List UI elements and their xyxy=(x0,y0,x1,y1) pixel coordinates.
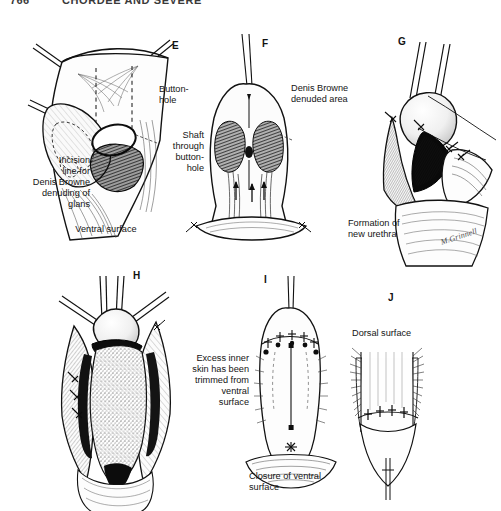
panel-g-artwork xyxy=(383,42,496,266)
figure-artwork xyxy=(0,0,501,511)
surgical-figure: E F G H I J Button- hole Incision line f… xyxy=(0,0,501,511)
panel-f-artwork xyxy=(186,34,311,240)
panel-j-artwork xyxy=(350,348,424,500)
label-shaft-through-buttonhole: Shaft through button- hole xyxy=(158,130,204,174)
panel-letter-j: J xyxy=(388,292,394,303)
panel-letter-e: E xyxy=(172,40,179,51)
label-excess-skin: Excess inner skin has been trimmed from … xyxy=(163,353,249,408)
label-closure-ventral: Closure of ventral surface xyxy=(249,471,321,493)
label-dorsal-surface: Dorsal surface xyxy=(352,328,411,339)
label-new-urethra: Formation of new urethra xyxy=(348,218,400,240)
label-incision-line: Incision line for Denis Browne denuding … xyxy=(0,155,90,210)
panel-letter-i: I xyxy=(264,274,267,285)
label-denuded-area: Denis Browne denuded area xyxy=(291,83,348,105)
panel-letter-f: F xyxy=(262,38,268,49)
panel-i-artwork xyxy=(246,276,336,488)
label-ventral-surface: Ventral surface xyxy=(46,224,166,235)
panel-e-artwork xyxy=(28,40,173,240)
label-buttonhole: Button- hole xyxy=(159,84,189,106)
panel-letter-g: G xyxy=(398,36,406,47)
panel-h-artwork xyxy=(59,276,170,511)
panel-letter-h: H xyxy=(133,270,140,281)
